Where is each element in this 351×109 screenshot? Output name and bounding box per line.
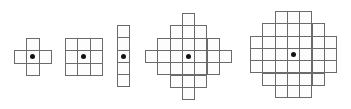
grid-cell <box>287 11 300 24</box>
grid-cell <box>26 38 39 51</box>
grid-cell <box>299 23 312 36</box>
grid-cell <box>324 60 337 73</box>
grid-cell <box>182 75 195 88</box>
grid-cell <box>65 38 78 51</box>
grid-cell <box>117 25 130 38</box>
grid-cell <box>117 74 130 87</box>
grid-cell <box>194 38 207 51</box>
grid-cell <box>262 23 275 36</box>
grid-cell <box>157 50 170 63</box>
grid-cell <box>182 13 195 26</box>
center-dot-icon <box>121 54 126 59</box>
grid-cell <box>312 60 325 73</box>
grid-cell <box>262 36 275 49</box>
grid-cell <box>207 38 220 51</box>
grid-cell <box>324 36 337 49</box>
grid-cell <box>90 50 103 63</box>
grid-cell <box>287 73 300 86</box>
grid-cell <box>65 63 78 76</box>
grid-cell <box>77 63 90 76</box>
grid-cell <box>299 11 312 24</box>
grid-cell <box>194 25 207 38</box>
grid-cell <box>312 23 325 36</box>
grid-cell <box>262 60 275 73</box>
grid-cell <box>14 50 27 63</box>
grid-cell <box>219 50 232 63</box>
grid-cell <box>26 63 39 76</box>
grid-cell <box>312 36 325 49</box>
grid-cell <box>117 37 130 50</box>
grid-cell <box>157 38 170 51</box>
grid-cell <box>275 36 288 49</box>
grid-cell <box>170 62 183 75</box>
grid-cell <box>250 60 263 73</box>
grid-cell <box>182 38 195 51</box>
grid-cell <box>275 85 288 98</box>
grid-cell <box>194 62 207 75</box>
grid-cell <box>312 48 325 61</box>
grid-cell <box>250 48 263 61</box>
grid-cell <box>170 50 183 63</box>
grid-cell <box>65 50 78 63</box>
grid-cell <box>287 23 300 36</box>
grid-cell <box>90 38 103 51</box>
grid-cell <box>275 11 288 24</box>
grid-cell <box>117 62 130 75</box>
grid-cell <box>182 87 195 100</box>
grid-cell <box>170 38 183 51</box>
grid-cell <box>207 62 220 75</box>
grid-cell <box>194 75 207 88</box>
grid-cell <box>170 75 183 88</box>
grid-cell <box>299 60 312 73</box>
grid-cell <box>157 62 170 75</box>
grid-cell <box>250 36 263 49</box>
grid-cell <box>207 50 220 63</box>
grid-cell <box>194 50 207 63</box>
grid-cell <box>145 50 158 63</box>
grid-cell <box>299 85 312 98</box>
grid-cell <box>77 38 90 51</box>
grid-cell <box>182 62 195 75</box>
grid-cell <box>299 36 312 49</box>
grid-cell <box>90 63 103 76</box>
grid-cell <box>262 73 275 86</box>
grid-cell <box>39 50 52 63</box>
grid-cell <box>299 48 312 61</box>
grid-cell <box>262 48 275 61</box>
grid-cell <box>287 85 300 98</box>
grid-cell <box>275 73 288 86</box>
grid-cell <box>312 73 325 86</box>
grid-cell <box>275 60 288 73</box>
grid-cell <box>170 25 183 38</box>
grid-cell <box>275 23 288 36</box>
grid-cell <box>182 25 195 38</box>
grid-cell <box>299 73 312 86</box>
grid-cell <box>287 60 300 73</box>
grid-cell <box>275 48 288 61</box>
grid-cell <box>324 48 337 61</box>
grid-cell <box>287 36 300 49</box>
